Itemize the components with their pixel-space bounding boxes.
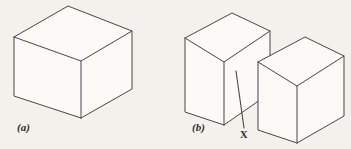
panel-b-block-right xyxy=(258,37,344,143)
panel-b-label: (b) xyxy=(192,122,205,133)
panel-b-block-left xyxy=(185,13,270,125)
callout-label-x: X xyxy=(240,130,248,141)
panel-a-label: (a) xyxy=(17,122,30,133)
panel-a-cube xyxy=(14,6,132,118)
figure-drawing-svg xyxy=(0,0,351,149)
figure-container: (a) (b) X xyxy=(0,0,351,149)
